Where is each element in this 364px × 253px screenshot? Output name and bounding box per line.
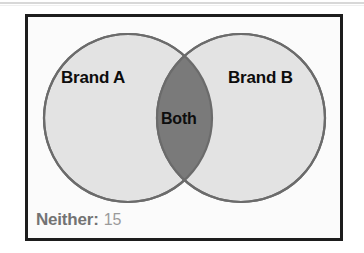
page-top-rule-secondary [0, 5, 364, 6]
neither-value: 15 [104, 211, 122, 229]
page-top-rule [0, 2, 364, 4]
venn-label-brand-a: Brand A [61, 68, 125, 88]
venn-label-both: Both [161, 110, 197, 128]
neither-caption: Neither: 15 [36, 210, 121, 230]
venn-label-brand-b: Brand B [228, 68, 293, 88]
neither-label: Neither: [36, 210, 99, 230]
